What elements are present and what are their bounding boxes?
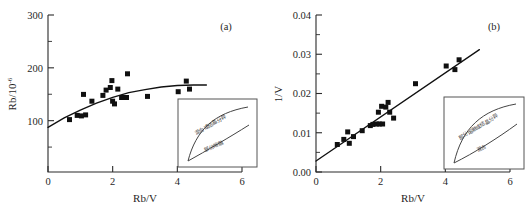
panel-b-plot: 0.00 0.01 0.02 0.03 0.04 0 2 4 6 Rb/V 1/… <box>264 0 528 212</box>
y-tick-label-a-0: 100 <box>27 116 43 127</box>
inset-b: 部分熔融或结晶分异 混合 <box>444 97 524 169</box>
y-tick-label-b-4: 0.04 <box>293 10 312 21</box>
data-markers-b <box>335 57 462 147</box>
panel-a: 100 200 300 0 2 4 6 Rb/V Rb/10-6 (a) <box>0 0 264 212</box>
panel-b: 0.00 0.01 0.02 0.03 0.04 0 2 4 6 Rb/V 1/… <box>264 0 528 212</box>
figure-container: 100 200 300 0 2 4 6 Rb/V Rb/10-6 (a) <box>0 0 528 212</box>
x-tick-label-a-0: 0 <box>45 176 50 187</box>
svg-text:Rb/10-6: Rb/10-6 <box>6 77 18 110</box>
x-tick-label-a-3: 6 <box>239 176 244 187</box>
panel-tag-a: (a) <box>220 21 232 33</box>
y-tick-label-b-2: 0.02 <box>293 88 311 99</box>
y-axis-title-a-sup: -6 <box>6 77 14 83</box>
y-tick-label-b-0: 0.00 <box>293 167 311 178</box>
inset-a: 混合或结晶分异 部分熔融 <box>178 99 257 167</box>
x-tick-label-a-2: 4 <box>175 176 181 187</box>
x-axis-title-a: Rb/V <box>133 192 157 204</box>
x-axis-title-b: Rb/V <box>401 192 425 204</box>
y-axis-title-a-main: Rb/10 <box>6 83 18 110</box>
y-tick-label-a-2: 300 <box>27 10 43 21</box>
x-tick-label-b-3: 6 <box>507 176 512 187</box>
y-axis-title-b-text: 1/V <box>272 86 284 103</box>
x-tick-label-a-1: 2 <box>110 176 115 187</box>
y-ticks-b <box>316 15 322 172</box>
y-axis-title-b: 1/V <box>272 86 284 103</box>
y-tick-label-a-1: 200 <box>27 63 43 74</box>
x-tick-label-b-0: 0 <box>313 176 318 187</box>
y-axis-title-a: Rb/10-6 <box>6 77 18 110</box>
x-tick-label-b-1: 2 <box>378 176 383 187</box>
panel-a-plot: 100 200 300 0 2 4 6 Rb/V Rb/10-6 (a) <box>0 0 264 212</box>
panel-tag-b: (b) <box>488 21 501 33</box>
x-tick-label-b-2: 4 <box>443 176 449 187</box>
y-tick-label-b-1: 0.01 <box>293 128 311 139</box>
y-tick-label-b-3: 0.03 <box>293 49 311 60</box>
data-markers-a <box>67 71 192 122</box>
